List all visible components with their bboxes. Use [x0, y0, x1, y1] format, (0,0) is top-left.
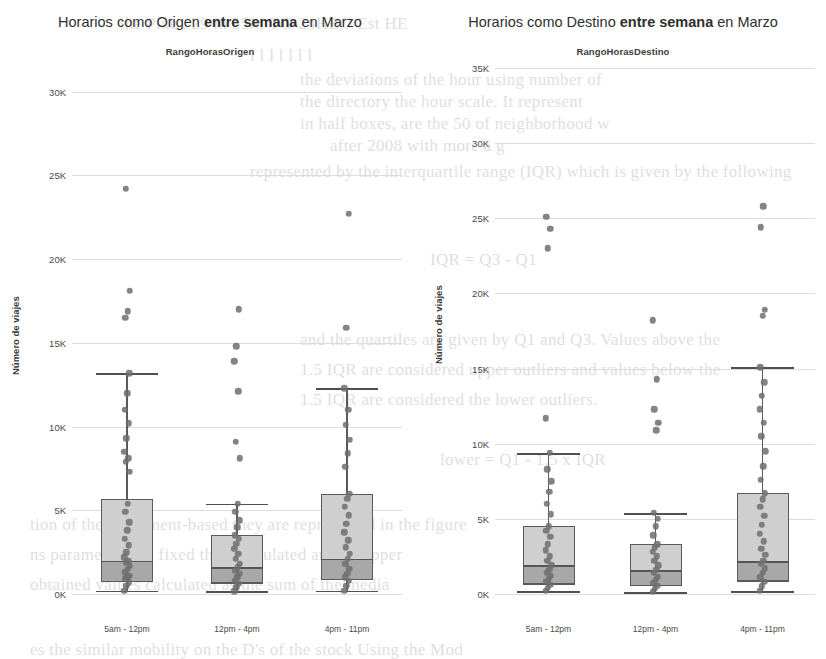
data-point: [121, 448, 128, 455]
data-point: [758, 224, 765, 231]
y-tick-label: 30K: [26, 86, 66, 97]
data-point: [760, 463, 767, 470]
x-tick-label: 12pm - 4pm: [214, 624, 259, 634]
data-point: [124, 500, 131, 507]
data-point: [654, 541, 661, 548]
data-point: [123, 435, 130, 442]
y-axis-title: Número de viajes: [10, 296, 21, 375]
y-tick-label: 0K: [449, 589, 489, 600]
data-point: [653, 427, 660, 434]
data-point: [761, 379, 768, 386]
data-point: [343, 544, 350, 551]
data-point: [545, 541, 552, 548]
plot-area-origen: 0K5K10K15K20K25K30KNúmero de viajes5am -…: [0, 0, 420, 659]
data-point: [652, 523, 659, 530]
data-point: [650, 317, 657, 324]
data-point: [124, 390, 131, 397]
data-point: [760, 538, 767, 545]
data-point: [347, 551, 354, 558]
data-point: [757, 531, 764, 538]
y-tick-label: 15K: [449, 363, 489, 374]
data-point: [125, 420, 132, 427]
data-point: [236, 517, 243, 524]
x-tick-label: 5am - 12pm: [104, 624, 149, 634]
y-tick-label: 10K: [26, 421, 66, 432]
data-point: [757, 364, 764, 371]
data-point: [235, 388, 242, 395]
data-point: [341, 385, 348, 392]
y-gridline: [72, 259, 402, 260]
data-point: [547, 226, 554, 233]
data-point: [123, 186, 130, 193]
data-point: [757, 504, 764, 511]
data-point: [762, 448, 769, 455]
data-point: [543, 547, 550, 554]
data-point: [546, 449, 553, 456]
data-point: [126, 370, 133, 377]
data-point: [233, 438, 240, 445]
data-point: [345, 537, 352, 544]
data-point: [760, 203, 767, 210]
data-point: [122, 407, 129, 414]
y-axis-title: Número de viajes: [433, 285, 444, 364]
data-point: [761, 490, 768, 497]
y-gridline: [72, 92, 402, 93]
data-point: [343, 422, 350, 429]
y-tick-label: 20K: [26, 254, 66, 265]
data-point: [545, 245, 552, 252]
data-point: [123, 549, 130, 556]
data-point: [545, 523, 552, 530]
data-point: [758, 546, 765, 553]
data-point: [654, 516, 661, 523]
data-point: [758, 433, 765, 440]
y-gridline: [72, 427, 402, 428]
x-tick-label: 4pm - 11pm: [325, 624, 370, 634]
data-point: [760, 419, 767, 426]
data-point: [543, 214, 550, 221]
data-point: [547, 511, 554, 518]
data-point: [124, 308, 131, 315]
data-point: [237, 455, 244, 462]
data-point: [651, 406, 658, 413]
y-tick-label: 30K: [449, 138, 489, 149]
data-point: [544, 501, 551, 508]
data-point: [125, 542, 132, 549]
data-point: [345, 512, 352, 519]
y-tick-label: 10K: [449, 438, 489, 449]
whisker-upper: [762, 367, 763, 493]
data-point: [345, 211, 352, 218]
data-point: [235, 306, 242, 313]
data-point: [127, 469, 134, 476]
data-point: [653, 376, 660, 383]
x-tick-label: 4pm - 11pm: [740, 624, 785, 634]
data-point: [343, 520, 350, 527]
y-tick-label: 15K: [26, 337, 66, 348]
y-tick-label: 20K: [449, 288, 489, 299]
y-tick-label: 0K: [26, 589, 66, 600]
y-gridline: [495, 444, 815, 445]
data-point: [757, 406, 764, 413]
data-point: [342, 464, 349, 471]
data-point: [234, 500, 241, 507]
data-point: [345, 407, 352, 414]
data-point: [343, 325, 350, 332]
data-point: [126, 519, 133, 526]
y-gridline: [495, 68, 815, 69]
data-point: [762, 552, 769, 559]
data-point: [234, 524, 241, 531]
data-point: [543, 415, 550, 422]
data-point: [231, 358, 238, 365]
x-tick-label: 5am - 12pm: [526, 624, 571, 634]
data-point: [232, 532, 239, 539]
data-point: [122, 536, 129, 543]
data-point: [342, 504, 349, 511]
y-tick-label: 35K: [449, 63, 489, 74]
plot-area-destino: 0K5K10K15K20K25K30K35KNúmero de viajes5a…: [420, 0, 826, 659]
panel-destino: Horarios como Destino entre semana en Ma…: [420, 0, 826, 659]
data-point: [544, 466, 551, 473]
data-point: [232, 509, 239, 516]
panel-origen: Horarios como Origen entre semana en Mar…: [0, 0, 420, 659]
data-point: [346, 490, 353, 497]
data-point: [655, 419, 662, 426]
data-point: [761, 307, 768, 314]
